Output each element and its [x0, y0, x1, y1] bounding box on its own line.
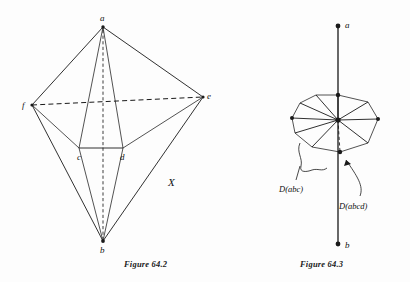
figure-caption-right: Figure 64.3 [300, 259, 343, 269]
figure-64-3-fan [290, 93, 380, 154]
d-abcd-label: D(abcd) [338, 201, 367, 211]
figure-64-3-axis [336, 24, 341, 247]
d-abc-label: D(abc) [278, 184, 303, 194]
spoke-8 [292, 118, 338, 120]
spoke-9 [300, 103, 338, 120]
figure-64-3-drawing: a b D(abc) D(abcd) [0, 0, 410, 282]
figure-64-3-leaders [296, 143, 361, 196]
spoke-3 [338, 119, 378, 120]
fan-vertex-left [290, 116, 294, 120]
fan-vertex-bottom [338, 150, 342, 154]
figure-page: a f e c d b X [0, 0, 410, 282]
vertex-label-a: a [345, 20, 350, 30]
fan-vertex-right [376, 117, 380, 121]
vertex-label-b: b [345, 240, 350, 250]
figure-64-3-labels: a b D(abc) D(abcd) [278, 20, 367, 250]
fan-vertex-top [336, 93, 340, 97]
spoke-2 [338, 102, 368, 120]
arrowhead-d-abcd [344, 160, 351, 166]
spoke-10 [316, 95, 338, 120]
leader-d-abcd [346, 160, 361, 196]
vertex-dot-b [336, 242, 341, 247]
fan-hub [335, 117, 340, 122]
leader-d-abc [296, 166, 300, 180]
spoke-4 [338, 120, 368, 143]
figure-caption-left: Figure 64.2 [124, 259, 167, 269]
vertex-dot-a [336, 24, 341, 29]
